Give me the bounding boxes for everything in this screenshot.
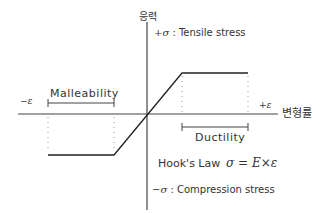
hooks-law-formula: σ = E×ε (226, 157, 277, 169)
malleability-label: Malleability (50, 88, 119, 99)
hooks-law-label: Hook's Law (158, 158, 220, 169)
tensile-stress-label: +σ : Tensile stress (154, 28, 246, 38)
positive-strain-label: +ε (259, 101, 271, 110)
x-axis-label: 변형률 (282, 108, 312, 119)
y-axis-label: 응력 (139, 12, 157, 22)
negative-strain-label: −ε (20, 97, 32, 106)
compression-stress-label: −σ : Compression stress (152, 185, 275, 195)
ductility-label: Ductility (195, 132, 245, 143)
